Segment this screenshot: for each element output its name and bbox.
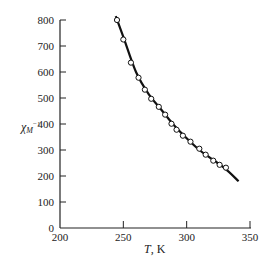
data-point bbox=[174, 127, 179, 132]
data-point bbox=[188, 139, 193, 144]
fit-curve bbox=[116, 16, 239, 181]
y-tick-label: 500 bbox=[38, 92, 55, 104]
y-tick-label: 300 bbox=[38, 144, 55, 156]
data-point bbox=[211, 158, 216, 163]
data-point bbox=[180, 133, 185, 138]
data-point bbox=[223, 165, 228, 170]
y-tick-label: 600 bbox=[38, 66, 55, 78]
x-tick-label: 250 bbox=[115, 231, 132, 243]
y-axis-title: χM−1 bbox=[20, 120, 41, 135]
x-tick-label: 350 bbox=[242, 231, 259, 243]
x-ticks: 200250300350 bbox=[52, 221, 259, 243]
data-point bbox=[169, 121, 174, 126]
data-point bbox=[142, 87, 147, 92]
data-point bbox=[156, 104, 161, 109]
data-point bbox=[128, 60, 133, 65]
data-point bbox=[136, 75, 141, 80]
y-tick-label: 200 bbox=[38, 170, 55, 182]
y-tick-label: 700 bbox=[38, 40, 55, 52]
data-point bbox=[114, 17, 119, 22]
data-point bbox=[121, 37, 126, 42]
data-point bbox=[149, 96, 154, 101]
data-point bbox=[197, 146, 202, 151]
y-tick-label: 100 bbox=[38, 196, 55, 208]
data-point bbox=[217, 162, 222, 167]
data-point bbox=[163, 112, 168, 117]
y-ticks: 0100200300400500600700800 bbox=[38, 14, 67, 234]
data-points bbox=[114, 17, 228, 170]
chart-canvas: 0100200300400500600700800 200250300350 T… bbox=[0, 0, 276, 266]
data-point bbox=[203, 152, 208, 157]
x-tick-label: 200 bbox=[52, 231, 69, 243]
x-axis-title: T, K bbox=[144, 242, 166, 256]
y-tick-label: 800 bbox=[38, 14, 55, 26]
x-tick-label: 300 bbox=[178, 231, 195, 243]
